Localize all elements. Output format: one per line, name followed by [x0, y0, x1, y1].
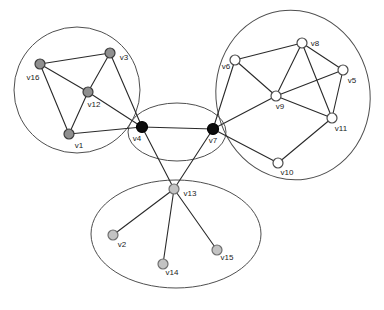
edge-v16-v12 — [40, 64, 88, 92]
edge-v3-v4 — [110, 53, 142, 127]
edge-v7-v10 — [213, 129, 278, 163]
edge-v6-v8 — [235, 43, 302, 60]
node-v11 — [327, 113, 337, 123]
edge-v1-v4 — [69, 127, 142, 134]
edge-v13-v2 — [113, 189, 174, 235]
edge-v16-v1 — [40, 64, 69, 134]
node-label-v13: v13 — [184, 189, 197, 198]
edge-v3-v12 — [88, 53, 110, 92]
graph-figure: v1v2v3v4v5v6v7v8v9v10v11v12v13v14v15v16 — [0, 0, 384, 310]
edge-v12-v1 — [69, 92, 88, 134]
cluster-left-circle — [14, 27, 140, 153]
node-v13 — [169, 184, 179, 194]
edge-v6-v9 — [235, 60, 276, 96]
edge-v9-v11 — [276, 96, 332, 118]
node-v3 — [105, 48, 115, 58]
node-v4 — [137, 122, 148, 133]
cluster-right-ellipse — [204, 0, 383, 191]
edge-v8-v5 — [302, 43, 343, 70]
node-v2 — [108, 230, 118, 240]
edge-v4-v13 — [142, 127, 174, 189]
node-label-v12: v12 — [88, 100, 101, 109]
node-label-v11: v11 — [335, 124, 348, 133]
edge-v13-v15 — [174, 189, 217, 250]
node-label-v9: v9 — [276, 102, 285, 111]
edge-v7-v13 — [174, 129, 213, 189]
node-label-v2: v2 — [118, 240, 127, 249]
node-v6 — [230, 55, 240, 65]
edge-v4-v7 — [142, 127, 213, 129]
edge-v11-v10 — [278, 118, 332, 163]
node-v10 — [273, 158, 283, 168]
node-label-v16: v16 — [27, 73, 40, 82]
edge-v13-v14 — [163, 189, 174, 264]
graph-canvas: v1v2v3v4v5v6v7v8v9v10v11v12v13v14v15v16 — [0, 0, 384, 310]
node-v8 — [297, 38, 307, 48]
node-label-v6: v6 — [222, 62, 231, 71]
node-label-v3: v3 — [120, 53, 129, 62]
node-v16 — [35, 59, 45, 69]
edge-v8-v9 — [276, 43, 302, 96]
node-v1 — [64, 129, 74, 139]
node-label-v10: v10 — [281, 168, 294, 177]
edge-v16-v3 — [40, 53, 110, 64]
node-v9 — [271, 91, 281, 101]
node-label-v8: v8 — [311, 39, 320, 48]
node-v12 — [83, 87, 93, 97]
edge-v9-v5 — [276, 70, 343, 96]
node-v5 — [338, 65, 348, 75]
node-label-v7: v7 — [209, 136, 218, 145]
node-label-v4: v4 — [133, 134, 142, 143]
node-label-v14: v14 — [166, 268, 179, 277]
node-label-v15: v15 — [221, 253, 234, 262]
node-label-v1: v1 — [75, 141, 84, 150]
edge-v5-v11 — [332, 70, 343, 118]
node-v7 — [208, 124, 219, 135]
node-label-v5: v5 — [348, 76, 357, 85]
